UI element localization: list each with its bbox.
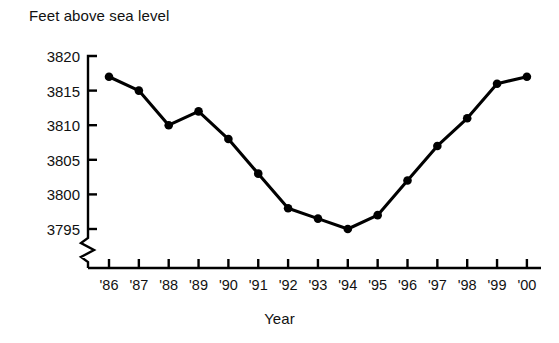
plot-area: [0, 0, 559, 343]
data-point: [403, 176, 412, 185]
axes: [81, 56, 541, 268]
data-point: [254, 169, 263, 178]
data-point: [284, 204, 293, 213]
series-markers: [105, 72, 532, 233]
data-series: [105, 72, 532, 233]
data-point: [224, 135, 233, 144]
data-point: [135, 86, 144, 95]
x-axis-ticks: [109, 259, 527, 268]
data-point: [433, 142, 442, 151]
line-chart: Feet above sea level Year 37953800380538…: [0, 0, 559, 343]
series-line: [109, 77, 527, 229]
data-point: [493, 79, 502, 88]
data-point: [344, 225, 353, 234]
y-axis-ticks: [88, 91, 97, 229]
data-point: [463, 114, 472, 123]
data-point: [164, 121, 173, 130]
data-point: [314, 214, 323, 223]
data-point: [523, 72, 532, 81]
y-axis-line: [81, 56, 97, 268]
data-point: [194, 107, 203, 116]
data-point: [105, 72, 114, 81]
data-point: [373, 211, 382, 220]
